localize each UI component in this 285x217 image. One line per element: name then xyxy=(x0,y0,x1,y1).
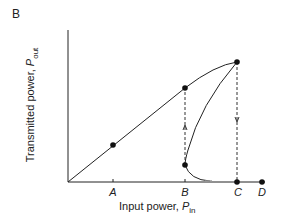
bistability-diagram xyxy=(0,0,285,217)
y-axis-label: Transmitted power, Pout xyxy=(24,48,39,163)
tick-label-c: C xyxy=(234,186,242,198)
point-b-upper xyxy=(182,85,188,91)
x-axis-label: Input power, Pin xyxy=(119,200,196,215)
tick-label-b: B xyxy=(181,186,188,198)
point-a xyxy=(110,142,116,148)
point-b-lower xyxy=(182,162,188,168)
point-c-lower xyxy=(234,179,240,185)
point-d xyxy=(259,179,265,185)
tick-label-a: A xyxy=(109,186,116,198)
tick-label-d: D xyxy=(258,186,266,198)
middle-branch-curve xyxy=(185,62,237,165)
lower-branch-curve xyxy=(185,165,210,181)
upper-branch-curve xyxy=(68,62,237,182)
point-c-upper xyxy=(234,59,240,65)
